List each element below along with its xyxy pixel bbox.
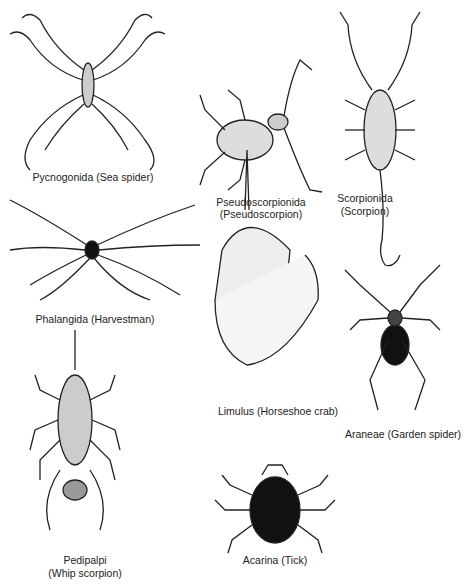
sea-spider-label: Pycnogonida (Sea spider) <box>8 171 178 184</box>
scorpion-label-line2: (Scorpion) <box>315 205 415 218</box>
horseshoe-crab-label: Limulus (Horseshoe crab) <box>208 405 348 418</box>
garden-spider-drawing <box>345 265 440 410</box>
arachnid-illustrations <box>0 0 464 587</box>
tick-drawing <box>215 465 335 553</box>
sea-spider-drawing <box>10 14 165 170</box>
whip-scorpion-drawing <box>30 330 120 530</box>
tick-label: Acarina (Tick) <box>230 554 320 567</box>
harvestman-drawing <box>10 200 200 300</box>
scorpion-drawing <box>340 12 420 266</box>
whip-scorpion-label-line2: (Whip scorpion) <box>35 567 135 580</box>
horseshoe-crab-drawing <box>215 150 318 365</box>
garden-spider-label: Araneae (Garden spider) <box>342 428 464 441</box>
harvestman-label: Phalangida (Harvestman) <box>5 313 185 326</box>
whip-scorpion-label-line1: Pedipalpi <box>35 554 135 567</box>
pseudoscorpion-drawing <box>200 60 322 192</box>
scorpion-label-line1: Scorpionida <box>315 192 415 205</box>
pseudoscorpion-label-line2: (Pseudoscorpion) <box>196 208 326 221</box>
